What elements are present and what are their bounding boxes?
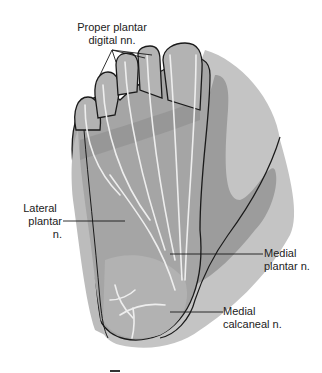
label-lateral-plantar: Lateral plantar n. <box>18 202 62 241</box>
label-medial-calcaneal: Medial calcaneal n. <box>223 305 282 331</box>
label-line: plantar n. <box>264 260 310 273</box>
label-line: Lateral <box>18 202 62 215</box>
label-medial-plantar: Medial plantar n. <box>264 247 310 273</box>
label-line: plantar n. <box>18 215 62 241</box>
label-line: Medial <box>264 247 310 260</box>
label-line: Medial <box>223 305 282 318</box>
label-line: digital nn. <box>62 34 162 47</box>
toe-4 <box>95 72 119 118</box>
label-line: calcaneal n. <box>223 318 282 331</box>
label-proper-plantar-digital: Proper plantar digital nn. <box>62 21 162 47</box>
label-line: Proper plantar <box>62 21 162 34</box>
bottom-mark <box>110 370 120 372</box>
